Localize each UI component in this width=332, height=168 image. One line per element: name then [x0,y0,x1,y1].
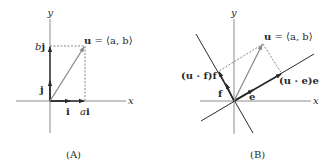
f-label: f [218,88,223,99]
u-label: u = ⟨a, b⟩ [84,35,133,46]
dashed-to-e [263,44,282,74]
x-axis-label: x [313,95,319,106]
uff-label: (u · f)f [181,70,217,81]
i-label: i [66,106,70,117]
y-axis-label: y [230,7,237,18]
u-vector [50,47,84,101]
u-label: u = ⟨a, b⟩ [264,31,313,42]
y-axis-label: y [47,7,54,18]
bj-label: bj [35,41,45,52]
j-label: j [39,84,44,95]
uee-label: (u · e)e [279,75,319,86]
panel-a-caption: (A) [66,149,81,160]
panel-b-caption: (B) [250,149,265,160]
e-label: e [249,91,255,102]
x-axis-label: x [128,95,134,106]
ai-label: ai [80,106,90,117]
f-vector [226,84,234,101]
panel-b: y x u = ⟨a, b⟩ (u · f)f (u · e)e f e (B) [181,7,319,160]
vector-decomposition-figure: y x u = ⟨a, b⟩ bj j i ai (A) y [0,0,332,168]
panel-a: y x u = ⟨a, b⟩ bj j i ai (A) [16,7,134,160]
